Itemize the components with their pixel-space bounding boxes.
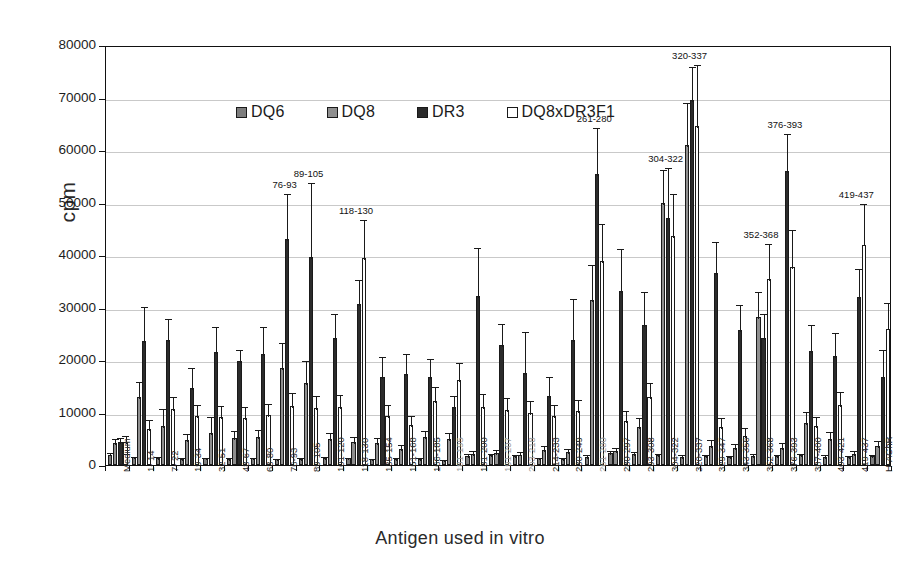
error-bar-cap	[808, 325, 815, 326]
legend-swatch-icon	[236, 107, 247, 118]
error-bar	[359, 280, 360, 306]
error-bar	[787, 134, 788, 173]
legend-swatch-icon	[327, 107, 338, 118]
error-bar	[878, 441, 879, 448]
error-bar	[502, 324, 503, 348]
y-axis-tick-mark	[99, 414, 105, 415]
x-axis-tick-label: 118-130	[359, 438, 370, 472]
x-axis-tick-label: 32-51	[216, 448, 227, 472]
legend-label: DQ6	[251, 103, 285, 121]
error-bar	[639, 418, 640, 430]
bar	[113, 443, 117, 465]
x-axis-tick-mark	[248, 466, 249, 471]
bar	[285, 239, 289, 465]
error-bar	[711, 440, 712, 447]
y-axis-tick-label: 50000	[26, 195, 96, 210]
error-bar	[782, 443, 783, 450]
y-axis-tick-mark	[99, 361, 105, 362]
bar	[661, 203, 665, 466]
x-axis-tick-mark	[319, 466, 320, 471]
error-bar-cap	[712, 242, 719, 243]
x-axis-tick-label: 19-34	[192, 448, 203, 472]
error-bar-cap	[789, 230, 796, 231]
legend-item-dq6[interactable]: DQ6	[236, 103, 285, 121]
error-bar	[173, 397, 174, 411]
bar	[709, 446, 713, 465]
error-bar	[792, 230, 793, 268]
x-axis-title: Antigen used in vitro	[200, 528, 720, 549]
legend-item-dq8[interactable]: DQ8	[327, 103, 376, 121]
gridline	[106, 257, 890, 258]
error-bar	[292, 393, 293, 408]
bar	[542, 450, 546, 465]
error-bar	[811, 325, 812, 352]
error-bar	[740, 305, 741, 331]
error-bar-cap	[498, 324, 505, 325]
error-bar	[483, 394, 484, 409]
bar	[137, 397, 141, 465]
error-bar	[525, 332, 526, 375]
x-axis-tick-mark	[796, 466, 797, 471]
error-bar-cap	[236, 350, 243, 351]
error-bar-cap	[884, 303, 891, 304]
error-bar-cap	[503, 398, 510, 399]
x-axis-tick-mark	[558, 466, 559, 471]
error-bar-cap	[336, 395, 343, 396]
x-axis-tick-mark	[391, 466, 392, 471]
x-axis-tick-mark	[891, 466, 892, 471]
error-bar-cap	[360, 220, 367, 221]
error-bar	[187, 434, 188, 441]
x-axis-tick-label: 63-80	[264, 448, 275, 472]
peak-annotation: 118-130	[339, 205, 373, 216]
x-axis-tick-mark	[438, 466, 439, 471]
error-bar-cap	[146, 420, 153, 421]
error-bar	[430, 359, 431, 379]
error-bar-cap	[313, 396, 320, 397]
legend-item-dr3[interactable]: DR3	[417, 103, 465, 121]
x-axis-tick-label: 101-120	[335, 437, 346, 472]
error-bar-cap	[522, 332, 529, 333]
error-bar	[245, 407, 246, 420]
x-axis-tick-label: 166-185	[431, 437, 442, 472]
error-bar	[830, 432, 831, 441]
x-axis-tick-mark	[629, 466, 630, 471]
error-bar-cap	[427, 359, 434, 360]
x-axis-tick-label: 76-93	[288, 448, 299, 472]
error-bar	[530, 401, 531, 415]
error-bar	[449, 433, 450, 441]
x-axis-tick-label: 280-297	[621, 437, 632, 472]
bar	[185, 440, 189, 465]
error-bar-cap	[265, 404, 272, 405]
bar	[862, 245, 866, 466]
y-axis-tick-label: 30000	[26, 300, 96, 315]
x-axis-tick-label: 376-393	[788, 437, 799, 472]
error-bar	[240, 350, 241, 363]
x-axis-tick-label: 135-154	[383, 437, 394, 472]
legend-label: DQ8	[342, 103, 376, 121]
error-bar	[888, 303, 889, 331]
x-axis-tick-label: 1- 14	[145, 450, 156, 472]
error-bar	[382, 357, 383, 379]
x-axis-tick-mark	[200, 466, 201, 471]
x-axis-tick-mark	[462, 466, 463, 471]
error-bar	[602, 224, 603, 263]
peak-annotation: 76-93	[272, 179, 296, 190]
bar	[375, 443, 379, 465]
x-axis-tick-mark	[153, 466, 154, 471]
x-axis-tick-label: 419-437	[859, 437, 870, 472]
bar	[685, 145, 689, 465]
chart-figure: cpm 76-9389-105118-130261-280304-322320-…	[0, 0, 918, 564]
x-axis-tick-mark	[772, 466, 773, 471]
bar	[423, 437, 427, 465]
error-bar	[139, 382, 140, 399]
y-axis-tick-label: 10000	[26, 405, 96, 420]
legend-item-dq8xdr3f1[interactable]: DQ8xDR3F1	[507, 103, 615, 121]
legend-label: DQ8xDR3F1	[522, 103, 615, 121]
error-bar	[859, 269, 860, 299]
x-axis-tick-label: 181-200	[478, 437, 489, 472]
bar	[756, 317, 760, 465]
x-axis-tick-mark	[367, 466, 368, 471]
error-bar-cap	[170, 397, 177, 398]
error-bar-cap	[403, 354, 410, 355]
peak-annotation: 352-368	[744, 229, 779, 240]
